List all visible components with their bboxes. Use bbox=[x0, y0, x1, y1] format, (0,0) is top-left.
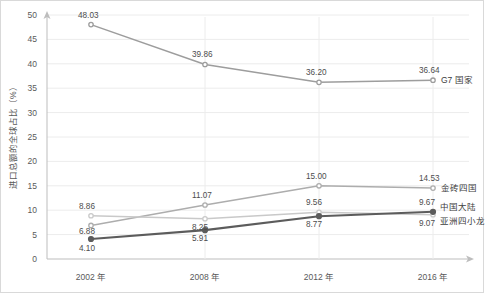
data-label: 8.86 bbox=[79, 203, 95, 211]
data-label: 4.10 bbox=[79, 245, 95, 253]
data-label: 14.53 bbox=[419, 175, 440, 183]
y-axis-tick-label: 10 bbox=[15, 206, 37, 215]
data-point-marker[interactable] bbox=[431, 186, 435, 190]
data-label: 6.88 bbox=[79, 228, 95, 236]
series-line-金砖四国 bbox=[91, 186, 433, 226]
data-label: 36.20 bbox=[306, 69, 327, 77]
y-axis-tick-label: 45 bbox=[15, 35, 37, 44]
x-axis-tick-label: 2002 年 bbox=[51, 273, 131, 282]
y-axis-title: 进口总额的全球占比（%） bbox=[9, 82, 18, 189]
data-point-marker[interactable] bbox=[203, 217, 207, 221]
data-point-marker[interactable] bbox=[89, 237, 94, 242]
data-label: 48.03 bbox=[78, 12, 99, 20]
data-label: 15.00 bbox=[306, 173, 327, 181]
x-axis-tick-label: 2016 年 bbox=[393, 273, 473, 282]
data-point-marker[interactable] bbox=[317, 214, 322, 219]
data-label: 39.86 bbox=[192, 51, 213, 59]
legend-label-亚洲四小龙[interactable]: 亚洲四小龙 bbox=[440, 217, 485, 226]
data-point-marker[interactable] bbox=[203, 62, 207, 66]
y-axis-tick-label: 50 bbox=[15, 11, 37, 20]
y-axis-tick-label: 0 bbox=[15, 255, 37, 264]
data-point-marker[interactable] bbox=[89, 214, 93, 218]
data-label: 9.56 bbox=[306, 199, 322, 207]
data-point-marker[interactable] bbox=[317, 80, 321, 84]
data-label: 5.91 bbox=[192, 235, 208, 243]
data-point-marker[interactable] bbox=[431, 78, 435, 82]
y-axis-tick-label: 15 bbox=[15, 182, 37, 191]
y-axis-tick-label: 30 bbox=[15, 109, 37, 118]
data-label: 9.67 bbox=[419, 199, 435, 207]
data-point-marker[interactable] bbox=[317, 184, 321, 188]
y-axis-tick-label: 20 bbox=[15, 157, 37, 166]
line-chart bbox=[1, 1, 485, 293]
y-axis-tick-label: 25 bbox=[15, 133, 37, 142]
legend-label-金砖四国[interactable]: 金砖四国 bbox=[441, 184, 477, 193]
data-label: 11.07 bbox=[192, 192, 212, 200]
data-label: 36.64 bbox=[419, 67, 440, 75]
series-line-G7 国家 bbox=[91, 25, 433, 83]
data-point-marker[interactable] bbox=[431, 209, 436, 214]
x-axis-tick-label: 2008 年 bbox=[165, 273, 245, 282]
x-axis-tick-label: 2012 年 bbox=[279, 273, 359, 282]
data-label: 8.77 bbox=[306, 221, 322, 229]
legend-label-G7 国家[interactable]: G7 国家 bbox=[441, 76, 473, 85]
legend-label-中国大陆[interactable]: 中国大陆 bbox=[440, 203, 476, 212]
y-axis-tick-label: 40 bbox=[15, 60, 37, 69]
data-point-marker[interactable] bbox=[203, 203, 207, 207]
y-axis-tick-label: 35 bbox=[15, 84, 37, 93]
y-axis-tick-label: 5 bbox=[15, 231, 37, 240]
data-label: 9.07 bbox=[419, 220, 435, 228]
data-point-marker[interactable] bbox=[89, 22, 93, 26]
data-label: 8.25 bbox=[192, 224, 208, 232]
